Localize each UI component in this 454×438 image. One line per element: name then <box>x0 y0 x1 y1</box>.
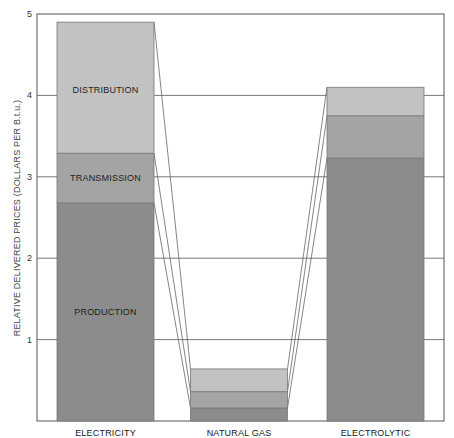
bar-segment-distribution <box>327 87 424 115</box>
segment-label: PRODUCTION <box>74 307 137 317</box>
y-axis-title: RELATIVE DELIVERED PRICES (DOLLARS PER B… <box>12 100 22 337</box>
category-labels: ELECTRICITYNATURAL GASELECTROLYTIC <box>75 428 411 438</box>
y-tick-label: 3 <box>27 172 32 182</box>
y-tick-label: 5 <box>27 9 32 19</box>
bar-segment-transmission <box>191 392 288 408</box>
category-label: ELECTRICITY <box>75 428 136 438</box>
connector-line <box>288 116 328 392</box>
segment-label: DISTRIBUTION <box>73 85 139 95</box>
connector-line <box>154 203 191 408</box>
connector-line <box>154 22 191 369</box>
connector-line <box>154 153 191 392</box>
bar-segment-production <box>327 158 424 421</box>
bar-segment-transmission <box>327 116 424 158</box>
bars <box>57 22 424 421</box>
y-tick-label: 2 <box>27 253 32 263</box>
connector-lines <box>154 22 327 408</box>
category-label: ELECTROLYTIC <box>341 428 411 438</box>
connector-line <box>288 87 328 369</box>
y-tick-label: 1 <box>27 335 32 345</box>
segment-label: TRANSMISSION <box>70 173 141 183</box>
stacked-bar-chart: 12345 ELECTRICITYNATURAL GASELECTROLYTIC… <box>0 0 454 438</box>
y-tick-labels: 12345 <box>27 9 32 345</box>
y-tick-label: 4 <box>27 90 32 100</box>
connector-line <box>288 158 328 408</box>
bar-segment-distribution <box>191 369 288 392</box>
category-label: NATURAL GAS <box>207 428 272 438</box>
bar-segment-production <box>191 408 288 421</box>
